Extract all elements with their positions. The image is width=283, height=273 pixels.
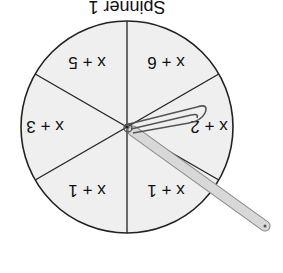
section-label: x + 3: [26, 117, 63, 136]
section-label: x + 2: [190, 117, 227, 136]
section-label: x + 6: [147, 53, 184, 72]
spinner-figure: x + 1 x + 2 x + 6 x + 1 x + 3 x + 5 Spin…: [0, 0, 283, 273]
section-label: x + 5: [68, 53, 105, 72]
section-label: x + 1: [147, 181, 184, 200]
spinner-caption: Spinner 1: [88, 0, 165, 17]
spinner-svg: x + 1 x + 2 x + 6 x + 1 x + 3 x + 5 Spin…: [0, 0, 283, 273]
section-label: x + 1: [68, 181, 105, 200]
